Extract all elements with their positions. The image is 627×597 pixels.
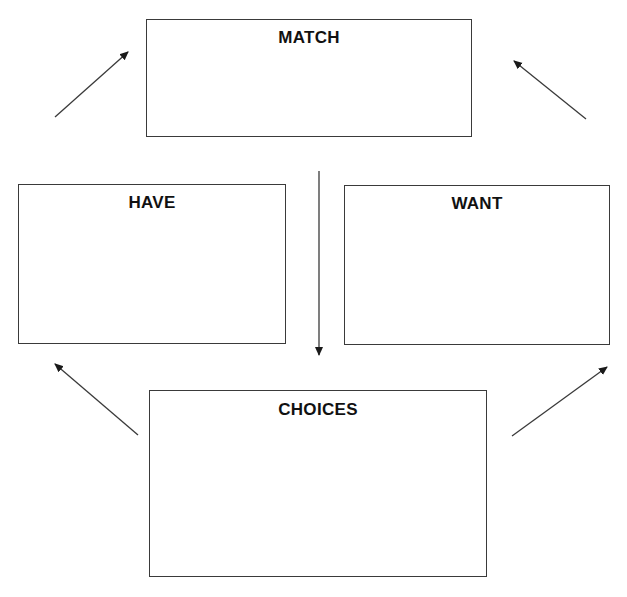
arrow-choices-to-have (55, 364, 138, 435)
arrow-choices-to-want (512, 367, 607, 436)
choices-title: CHOICES (150, 400, 486, 420)
arrow-left-to-match (55, 52, 128, 117)
match-box: MATCH (146, 19, 472, 137)
want-title: WANT (345, 194, 609, 214)
match-title: MATCH (147, 28, 471, 48)
have-box: HAVE (18, 184, 286, 344)
want-box: WANT (344, 185, 610, 345)
have-title: HAVE (19, 193, 285, 213)
choices-box: CHOICES (149, 390, 487, 577)
arrow-right-to-match (514, 61, 586, 119)
